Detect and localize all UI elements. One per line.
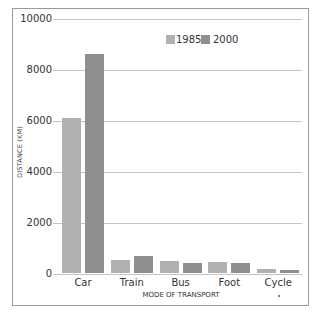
bar-foot-1985 xyxy=(208,262,227,274)
legend-swatch-2000 xyxy=(201,35,210,44)
gridline-10000 xyxy=(53,19,302,20)
gridline-0 xyxy=(53,274,302,275)
x-category-label: Car xyxy=(59,277,107,289)
bar-train-2000 xyxy=(134,256,153,274)
bar-foot-2000 xyxy=(231,263,250,273)
bar-bus-1985 xyxy=(160,261,179,274)
x-category-label: Train xyxy=(108,277,156,289)
x-category-label: Bus xyxy=(157,277,205,289)
bar-bus-2000 xyxy=(183,263,202,273)
legend-label-2000: 2000 xyxy=(213,34,238,45)
bar-car-2000 xyxy=(85,54,104,274)
stray-dot-mark xyxy=(278,295,280,297)
bar-cycle-2000 xyxy=(280,270,299,274)
legend-label-1985: 1985 xyxy=(176,34,201,45)
y-tick-label: 2000 xyxy=(14,217,52,229)
x-axis-label: MODE OF TRANSPORT xyxy=(142,291,219,299)
y-tick-label: 6000 xyxy=(14,115,52,127)
x-category-label: Cycle xyxy=(254,277,302,289)
y-tick-label: 10000 xyxy=(14,13,52,25)
bar-car-1985 xyxy=(62,118,81,273)
legend-swatch-1985 xyxy=(166,35,175,44)
bar-cycle-1985 xyxy=(257,269,276,274)
y-tick-label: 4000 xyxy=(14,166,52,178)
x-category-label: Foot xyxy=(205,277,253,289)
bar-train-1985 xyxy=(111,260,130,274)
y-tick-label: 0 xyxy=(14,268,52,280)
y-tick-label: 8000 xyxy=(14,64,52,76)
